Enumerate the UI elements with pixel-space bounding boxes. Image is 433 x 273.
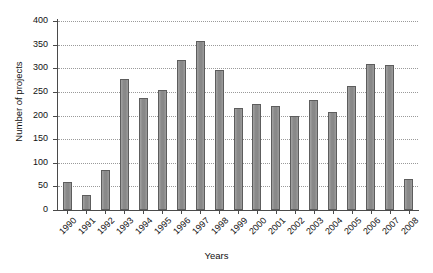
y-tick-label: 400 bbox=[0, 16, 48, 25]
y-tick-label: 0 bbox=[0, 205, 48, 214]
x-axis-title: Years bbox=[0, 250, 433, 261]
x-tick-mark bbox=[276, 210, 277, 214]
x-tick-mark bbox=[219, 210, 220, 214]
x-tick-mark bbox=[333, 210, 334, 214]
bar bbox=[271, 106, 280, 210]
y-tick-label: 100 bbox=[0, 158, 48, 167]
bar bbox=[404, 179, 413, 210]
bar bbox=[385, 65, 394, 210]
y-tick-label: 150 bbox=[0, 134, 48, 143]
x-tick-mark bbox=[295, 210, 296, 214]
x-tick-mark bbox=[409, 210, 410, 214]
bar bbox=[234, 108, 243, 210]
y-axis-title: Number of projects bbox=[13, 37, 24, 167]
bar bbox=[63, 182, 72, 210]
gridline bbox=[58, 45, 418, 46]
x-tick-mark bbox=[181, 210, 182, 214]
y-tick-label: 350 bbox=[0, 40, 48, 49]
bar bbox=[347, 86, 356, 210]
bar bbox=[328, 112, 337, 210]
plot-area bbox=[58, 21, 418, 210]
x-tick-mark bbox=[124, 210, 125, 214]
bar bbox=[366, 64, 375, 210]
bar bbox=[139, 98, 148, 210]
x-tick-mark bbox=[238, 210, 239, 214]
bar bbox=[290, 116, 299, 210]
x-tick-mark bbox=[86, 210, 87, 214]
bar bbox=[101, 170, 110, 210]
bar bbox=[120, 79, 129, 210]
bar bbox=[215, 70, 224, 210]
bar bbox=[309, 100, 318, 210]
y-tick-label: 300 bbox=[0, 63, 48, 72]
x-tick-mark bbox=[352, 210, 353, 214]
gridline bbox=[58, 92, 418, 93]
x-tick-mark bbox=[200, 210, 201, 214]
gridline bbox=[58, 68, 418, 69]
x-tick-mark bbox=[371, 210, 372, 214]
bar bbox=[158, 90, 167, 210]
y-tick-label: 200 bbox=[0, 111, 48, 120]
x-tick-mark bbox=[257, 210, 258, 214]
y-tick-label: 250 bbox=[0, 87, 48, 96]
bar bbox=[82, 195, 91, 210]
bar bbox=[196, 41, 205, 210]
x-tick-mark bbox=[390, 210, 391, 214]
x-tick-mark bbox=[314, 210, 315, 214]
x-tick-mark bbox=[105, 210, 106, 214]
x-tick-mark bbox=[143, 210, 144, 214]
gridline bbox=[58, 21, 418, 22]
bar bbox=[252, 104, 261, 210]
y-tick-label: 50 bbox=[0, 181, 48, 190]
bar-chart-figure: Number of projects 050100150200250300350… bbox=[0, 0, 433, 273]
bar bbox=[177, 60, 186, 210]
x-tick-mark bbox=[67, 210, 68, 214]
x-tick-mark bbox=[162, 210, 163, 214]
